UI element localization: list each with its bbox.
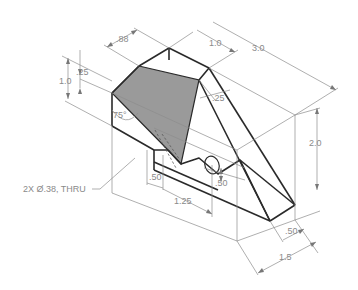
dim-025-left: .25	[76, 67, 89, 77]
dim-050-hole-z: .50	[215, 178, 228, 188]
hole-leader-line	[92, 158, 135, 189]
dim-1-5: 1.5	[279, 252, 292, 262]
dim-1-0-left: 1.0	[59, 76, 72, 86]
arrowheads	[66, 30, 336, 273]
hole-callout: 2X Ø.38, THRU	[23, 184, 86, 194]
dim-75-deg: 75°	[113, 110, 127, 120]
dim-088: .88	[116, 34, 129, 44]
dim-025-mid: .25	[212, 93, 225, 103]
dim-1-0-top: 1.0	[209, 38, 222, 48]
extension-lines	[62, 28, 338, 275]
dim-050-right: .50	[285, 226, 298, 236]
dim-050-hole-x: .50	[149, 172, 162, 182]
isometric-part-drawing: .88 1.0 3.0 1.0 .25 75° .25 2.0 .50 1.25…	[0, 0, 358, 290]
dim-1-25: 1.25	[174, 196, 192, 206]
dim-2-0: 2.0	[309, 138, 322, 148]
dim-3-0: 3.0	[252, 43, 265, 53]
